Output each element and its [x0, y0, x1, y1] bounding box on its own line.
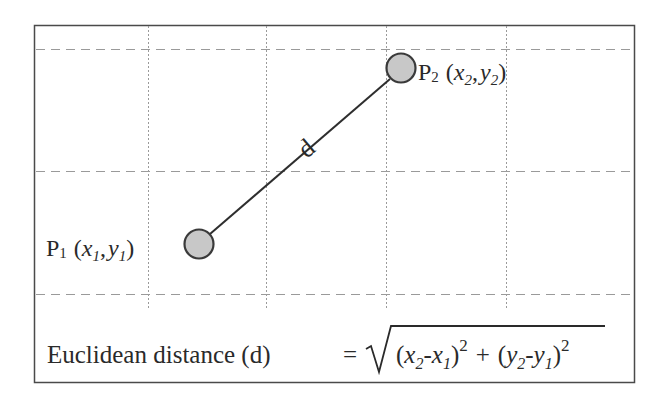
p2-label-main: P — [418, 59, 431, 85]
p2-label-sub: 2 — [431, 69, 439, 85]
point-p2-marker — [387, 54, 416, 83]
formula-minus-1: - — [423, 341, 431, 368]
formula-lhs: Euclidean distance (d) — [47, 341, 271, 369]
formula-x1: x — [431, 341, 443, 368]
formula-exponent-1: 2 — [459, 336, 468, 355]
p2-close-paren: ) — [498, 59, 506, 85]
formula-plus: + — [476, 341, 490, 368]
formula-close-paren-2: ) — [553, 341, 561, 369]
p1-close-paren: ) — [126, 235, 134, 261]
formula-equals: = — [343, 341, 357, 368]
formula-close-paren-1: ) — [451, 341, 459, 369]
formula-y2: y — [503, 341, 518, 368]
p2-coord-y: y — [478, 59, 491, 85]
p2-coord-x: x — [453, 59, 465, 85]
formula-exponent-2: 2 — [561, 336, 570, 355]
p1-label-main: P — [46, 235, 59, 261]
p1-comma: , — [100, 235, 106, 261]
p1-coord-x: x — [81, 235, 93, 261]
euclidean-distance-diagram: d P1(x1,y1) P2(x2,y2) Euclidean distance… — [0, 0, 664, 409]
point-p1-marker — [185, 230, 214, 259]
formula-x2: x — [403, 341, 415, 368]
p1-open-paren: ( — [74, 235, 82, 261]
formula-y2-sub: 2 — [517, 355, 525, 372]
formula-open-paren-2: ( — [498, 341, 506, 369]
p1-coord-x-sub: 1 — [93, 248, 101, 264]
p2-comma: , — [472, 59, 478, 85]
formula-minus-2: - — [525, 341, 533, 368]
formula-y1-sub: 1 — [545, 355, 553, 372]
formula-x1-sub: 1 — [443, 355, 451, 372]
formula-open-paren-1: ( — [396, 341, 404, 369]
diagram-frame — [35, 26, 635, 383]
p1-coord-y-sub: 1 — [119, 248, 127, 264]
formula-y1: y — [531, 341, 546, 368]
p1-coord-y: y — [106, 235, 119, 261]
p2-open-paren: ( — [446, 59, 454, 85]
formula-x2-sub: 2 — [415, 355, 423, 372]
p1-label-sub: 1 — [59, 245, 67, 261]
